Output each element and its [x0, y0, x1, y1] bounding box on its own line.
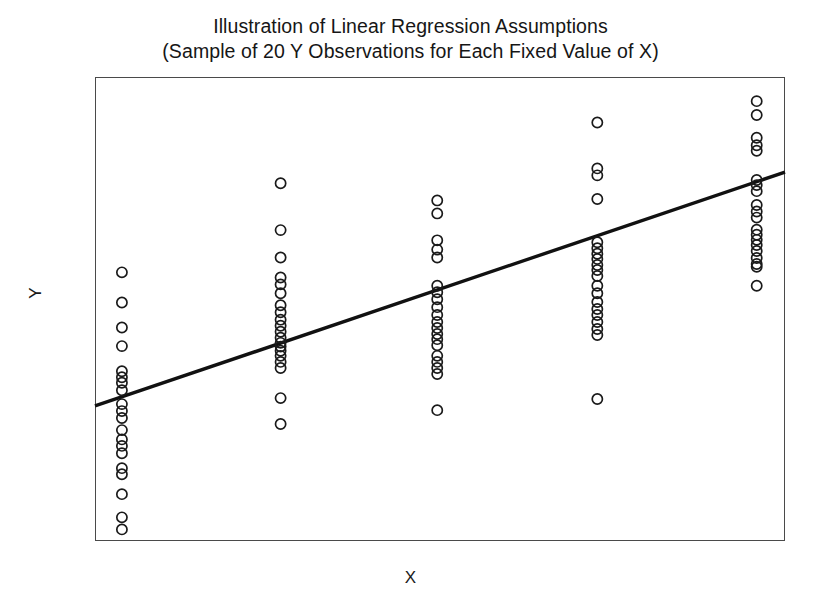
data-point — [752, 281, 762, 291]
data-point — [117, 297, 127, 307]
chart-title-line-2: (Sample of 20 Y Observations for Each Fi… — [0, 39, 821, 64]
data-point — [592, 271, 602, 281]
data-point — [432, 208, 442, 218]
data-point — [117, 267, 127, 277]
data-point — [117, 469, 127, 479]
data-point — [117, 385, 127, 395]
data-point — [276, 178, 286, 188]
chart-title-line-1: Illustration of Linear Regression Assump… — [0, 14, 821, 39]
data-point — [117, 524, 127, 534]
scatter-points-layer — [117, 96, 762, 534]
scatter-group-x5 — [752, 96, 762, 291]
data-point — [117, 489, 127, 499]
data-point — [276, 363, 286, 373]
x-axis-label: X — [0, 568, 821, 588]
y-axis-label: Y — [26, 271, 46, 315]
data-point — [432, 340, 442, 350]
chart-title: Illustration of Linear Regression Assump… — [0, 14, 821, 64]
data-point — [592, 194, 602, 204]
data-point — [752, 96, 762, 106]
data-point — [432, 195, 442, 205]
data-point — [752, 110, 762, 120]
data-point — [752, 212, 762, 222]
scatter-group-x2 — [276, 178, 286, 429]
data-point — [117, 413, 127, 423]
data-point — [276, 225, 286, 235]
data-point — [276, 419, 286, 429]
scatter-group-x3 — [432, 195, 442, 415]
data-point — [117, 448, 127, 458]
data-point — [592, 330, 602, 340]
plot-canvas — [95, 77, 785, 541]
data-point — [752, 186, 762, 196]
scatter-group-x1 — [117, 267, 127, 534]
data-point — [432, 405, 442, 415]
data-point — [117, 512, 127, 522]
data-point — [276, 252, 286, 262]
scatter-group-x4 — [592, 117, 602, 404]
data-point — [592, 117, 602, 127]
linear-regression-assumptions-figure: Illustration of Linear Regression Assump… — [0, 0, 821, 606]
data-point — [117, 322, 127, 332]
data-point — [592, 170, 602, 180]
data-point — [276, 393, 286, 403]
data-point — [117, 341, 127, 351]
data-point — [592, 394, 602, 404]
data-point — [432, 369, 442, 379]
